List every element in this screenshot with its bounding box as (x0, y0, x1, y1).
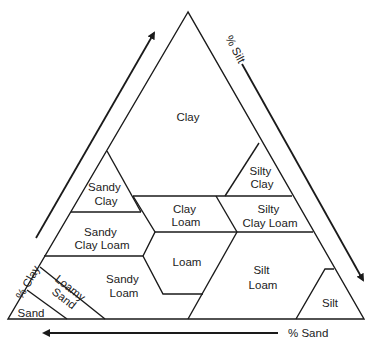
region-label-sandy-loam: Sandy Loam (106, 273, 142, 299)
region-label-silt-loam: Silt Loam (249, 264, 278, 291)
clay-axis-label: % Clay (13, 263, 42, 301)
sand-axis-label: % Sand (288, 327, 328, 339)
silt-axis-label: % Silt (223, 33, 248, 65)
region-label-clay-loam: Clay Loam (172, 203, 201, 228)
region-label-silty-clay: Silty Clay (250, 165, 275, 190)
region-label-sand: Sand (18, 307, 45, 319)
region-label-silt: Silt (322, 297, 339, 309)
region-label-clay: Clay (176, 111, 199, 123)
region-label-loam: Loam (173, 256, 202, 268)
region-label-sandy-clay: Sandy Clay (88, 181, 124, 207)
soil-texture-triangle: % Clay % Silt % Sand Clay Silty Clay San… (0, 0, 373, 349)
clay-axis-arrow (36, 33, 154, 238)
region-label-silty-clay-loam: Silty Clay Loam (243, 203, 298, 229)
region-label-sandy-clay-loam: Sandy Clay Loam (75, 226, 130, 251)
